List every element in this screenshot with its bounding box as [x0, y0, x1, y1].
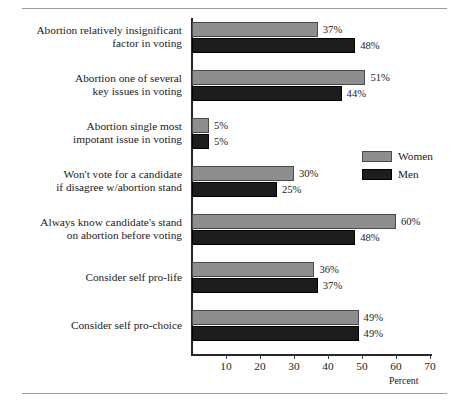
bar-row: Won't vote for a candidate if disagree w… [0, 166, 465, 214]
bar-row: Consider self pro-life36%37% [0, 262, 465, 310]
category-label: Abortion single most impotant issue in v… [8, 118, 182, 146]
x-tick-mark [328, 354, 329, 359]
top-divider-rule [22, 8, 447, 9]
bar-chart-figure: Abortion relatively insignificant factor… [0, 0, 465, 407]
bar-men [192, 326, 359, 341]
legend-swatch-women-icon [362, 151, 392, 162]
bar-row: Abortion one of several key issues in vo… [0, 70, 465, 118]
bar-value-label: 44% [347, 86, 366, 101]
bar-value-label: 48% [360, 230, 379, 245]
bar-men [192, 134, 209, 149]
bar-value-label: 5% [214, 118, 228, 133]
bar-women [192, 214, 396, 229]
bar-value-label: 25% [282, 182, 301, 197]
bar-women [192, 166, 294, 181]
bar-women [192, 118, 209, 133]
bar-value-label: 48% [360, 38, 379, 53]
x-tick-mark [396, 354, 397, 359]
bar-value-label: 37% [323, 22, 342, 37]
bar-value-label: 51% [370, 70, 389, 85]
x-tick-mark [226, 354, 227, 359]
bar-value-label: 36% [319, 262, 338, 277]
category-label: Always know candidate's stand on abortio… [8, 214, 182, 242]
bar-value-label: 30% [299, 166, 318, 181]
x-tick-label: 50 [347, 360, 377, 372]
x-tick-mark [430, 354, 431, 359]
x-tick-label: 40 [313, 360, 343, 372]
bar-row: Always know candidate's stand on abortio… [0, 214, 465, 262]
x-tick-label: 70 [415, 360, 445, 372]
x-tick-mark [260, 354, 261, 359]
bar-men [192, 182, 277, 197]
x-tick-label: 20 [245, 360, 275, 372]
category-label: Won't vote for a candidate if disagree w… [8, 166, 182, 194]
bar-value-label: 60% [401, 214, 420, 229]
x-tick-label: 10 [211, 360, 241, 372]
category-label: Consider self pro-choice [8, 310, 182, 332]
bar-value-label: 49% [364, 326, 383, 341]
bar-value-label: 37% [323, 278, 342, 293]
x-tick-label: 30 [279, 360, 309, 372]
bar-row: Consider self pro-choice49%49% [0, 310, 465, 358]
category-label: Abortion relatively insignificant factor… [8, 22, 182, 50]
x-axis-title: Percent [389, 375, 418, 386]
category-label: Consider self pro-life [8, 262, 182, 284]
bar-women [192, 262, 314, 277]
bar-row: Abortion relatively insignificant factor… [0, 22, 465, 70]
legend-swatch-men-icon [362, 169, 392, 180]
legend-label-women: Women [398, 149, 433, 164]
bar-value-label: 49% [364, 310, 383, 325]
bar-men [192, 38, 355, 53]
plot-area: Abortion relatively insignificant factor… [0, 18, 465, 358]
legend-label-men: Men [398, 167, 419, 182]
bar-men [192, 86, 342, 101]
bar-men [192, 278, 318, 293]
x-tick-mark [362, 354, 363, 359]
bar-women [192, 310, 359, 325]
bar-women [192, 22, 318, 37]
bar-value-label: 5% [214, 134, 228, 149]
bar-women [192, 70, 365, 85]
bar-row: Abortion single most impotant issue in v… [0, 118, 465, 166]
x-tick-label: 60 [381, 360, 411, 372]
bottom-divider-rule [22, 393, 447, 394]
bar-men [192, 230, 355, 245]
x-tick-mark [294, 354, 295, 359]
category-label: Abortion one of several key issues in vo… [8, 70, 182, 98]
